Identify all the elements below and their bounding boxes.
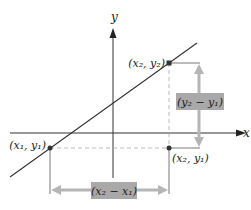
point-x2-y2: [167, 61, 172, 66]
point-x2-y1: [167, 146, 172, 151]
vertical-dimension-label: (y₂ − y₁): [177, 96, 223, 109]
y-axis-label: y: [110, 10, 118, 24]
extension-lines: [50, 63, 200, 194]
horizontal-dimension-label: (x₂ − x₁): [91, 185, 137, 198]
label-x1-y1: (x₁, y₁): [9, 139, 46, 152]
slope-diagram: (y₂ − y₁) (x₂ − x₁) (x₁, y₁) (x₂, y₂) (x…: [0, 0, 251, 210]
x-axis: [10, 130, 246, 137]
point-x1-y1: [48, 146, 53, 151]
label-x2-y1: (x₂, y₁): [172, 152, 209, 165]
label-x2-y2: (x₂, y₂): [128, 57, 165, 70]
x-axis-label: x: [243, 126, 250, 140]
